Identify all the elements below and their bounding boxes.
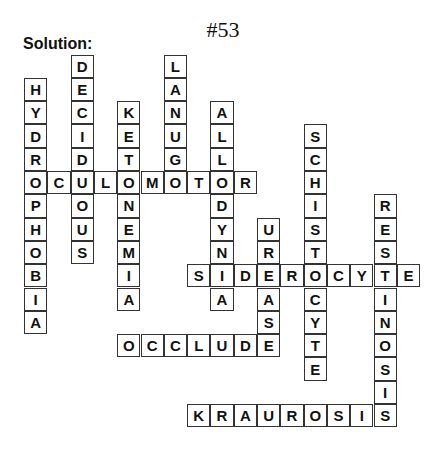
grid-cell: E: [397, 264, 420, 287]
grid-cell: Y: [304, 311, 327, 334]
grid-cell: D: [71, 148, 94, 171]
grid-cell: H: [24, 78, 47, 101]
grid-cell: C: [304, 288, 327, 311]
grid-cell: O: [24, 241, 47, 264]
grid-cell: D: [24, 124, 47, 147]
grid-cell: M: [117, 241, 140, 264]
grid-cell: A: [164, 78, 187, 101]
grid-cell: E: [117, 218, 140, 241]
grid-cell: L: [210, 124, 233, 147]
grid-cell: A: [257, 288, 280, 311]
grid-cell: K: [117, 101, 140, 124]
grid-cell: O: [374, 334, 397, 357]
grid-cell: M: [141, 171, 164, 194]
grid-cell: I: [71, 124, 94, 147]
grid-cell: A: [210, 288, 233, 311]
grid-cell: I: [374, 381, 397, 404]
grid-cell: L: [210, 148, 233, 171]
crossword-grid: HYDROPHOBIADECIDUOUSKETONEMIALANUGOALLOD…: [0, 0, 446, 452]
grid-cell: O: [117, 334, 140, 357]
grid-cell: T: [117, 148, 140, 171]
grid-cell: O: [71, 194, 94, 217]
grid-cell: C: [327, 264, 350, 287]
grid-cell: Y: [24, 101, 47, 124]
grid-cell: E: [374, 218, 397, 241]
grid-cell: T: [187, 171, 210, 194]
grid-cell: G: [164, 148, 187, 171]
grid-cell: S: [304, 124, 327, 147]
grid-cell: N: [117, 194, 140, 217]
grid-cell: S: [327, 404, 350, 427]
grid-cell: I: [210, 264, 233, 287]
grid-cell: R: [257, 241, 280, 264]
grid-cell: S: [374, 404, 397, 427]
grid-cell: L: [94, 171, 117, 194]
grid-cell: I: [117, 264, 140, 287]
grid-cell: U: [164, 124, 187, 147]
grid-cell: E: [257, 334, 280, 357]
grid-cell: Y: [350, 264, 373, 287]
grid-cell: P: [24, 194, 47, 217]
grid-cell: D: [234, 334, 257, 357]
grid-cell: D: [234, 264, 257, 287]
grid-cell: H: [24, 218, 47, 241]
grid-cell: R: [234, 171, 257, 194]
grid-cell: N: [374, 311, 397, 334]
grid-cell: U: [210, 334, 233, 357]
grid-cell: T: [304, 334, 327, 357]
grid-cell: E: [117, 124, 140, 147]
grid-cell: R: [210, 404, 233, 427]
grid-cell: L: [164, 55, 187, 78]
grid-cell: T: [374, 264, 397, 287]
grid-cell: S: [304, 218, 327, 241]
grid-cell: E: [257, 264, 280, 287]
grid-cell: E: [71, 78, 94, 101]
grid-cell: A: [234, 404, 257, 427]
grid-cell: I: [350, 404, 373, 427]
grid-cell: N: [210, 241, 233, 264]
grid-cell: U: [257, 404, 280, 427]
grid-cell: C: [71, 101, 94, 124]
grid-cell: R: [24, 148, 47, 171]
grid-cell: O: [304, 404, 327, 427]
grid-cell: S: [257, 311, 280, 334]
grid-cell: A: [210, 101, 233, 124]
grid-cell: O: [24, 171, 47, 194]
grid-cell: O: [210, 171, 233, 194]
grid-cell: I: [24, 288, 47, 311]
grid-cell: R: [280, 264, 303, 287]
grid-cell: B: [24, 264, 47, 287]
grid-cell: O: [117, 171, 140, 194]
grid-cell: D: [71, 55, 94, 78]
grid-cell: T: [304, 241, 327, 264]
grid-cell: I: [304, 194, 327, 217]
grid-cell: S: [187, 264, 210, 287]
grid-cell: C: [304, 148, 327, 171]
grid-cell: C: [164, 334, 187, 357]
grid-cell: U: [71, 171, 94, 194]
grid-cell: R: [374, 194, 397, 217]
grid-cell: A: [117, 288, 140, 311]
grid-cell: A: [24, 311, 47, 334]
grid-cell: N: [164, 101, 187, 124]
grid-cell: K: [187, 404, 210, 427]
grid-cell: I: [374, 288, 397, 311]
grid-cell: C: [47, 171, 70, 194]
grid-cell: C: [141, 334, 164, 357]
grid-cell: L: [187, 334, 210, 357]
grid-cell: H: [304, 171, 327, 194]
grid-cell: U: [257, 218, 280, 241]
grid-cell: S: [374, 357, 397, 380]
grid-cell: D: [210, 194, 233, 217]
grid-cell: Y: [210, 218, 233, 241]
grid-cell: O: [164, 171, 187, 194]
grid-cell: O: [304, 264, 327, 287]
grid-cell: U: [71, 218, 94, 241]
grid-cell: E: [304, 357, 327, 380]
grid-cell: S: [374, 241, 397, 264]
grid-cell: S: [71, 241, 94, 264]
grid-cell: R: [280, 404, 303, 427]
